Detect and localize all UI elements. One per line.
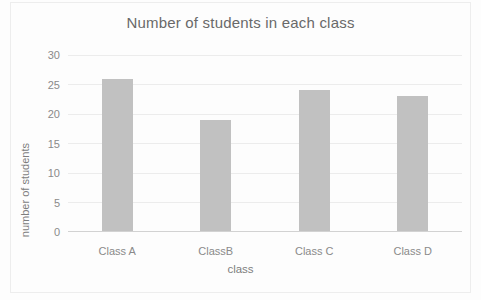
y-tick-label-10: 10	[26, 167, 60, 179]
bar-class-a	[102, 79, 133, 231]
bar-class-c	[299, 90, 330, 231]
bar-class-d	[397, 96, 428, 231]
x-axis-line	[68, 231, 462, 232]
y-axis-title-text: number of students	[19, 143, 31, 237]
y-tick-label-30: 30	[26, 49, 60, 61]
screenshot-root: { "chart_data": { "type": "bar", "title"…	[0, 0, 481, 300]
y-tick-label-25: 25	[26, 79, 60, 91]
plot-area: 051015202530Class AClassBClass CClass D	[68, 55, 462, 232]
bar-classb	[200, 120, 231, 231]
y-tick-label-0: 0	[26, 226, 60, 238]
chart-title: Number of students in each class	[0, 14, 481, 31]
y-tick-label-20: 20	[26, 108, 60, 120]
x-category-label-class-d: Class D	[368, 245, 458, 257]
x-category-label-class-a: Class A	[72, 245, 162, 257]
bar-chart: Number of students in each class number …	[0, 0, 481, 300]
gridline-y-30	[68, 55, 462, 56]
y-tick-label-5: 5	[26, 197, 60, 209]
y-tick-label-15: 15	[26, 138, 60, 150]
x-axis-title: class	[0, 263, 481, 275]
x-category-label-classb: ClassB	[171, 245, 261, 257]
x-category-label-class-c: Class C	[269, 245, 359, 257]
